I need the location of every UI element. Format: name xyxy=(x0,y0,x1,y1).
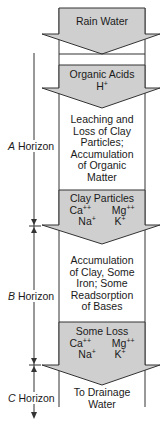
ion-row: Ca++ Mg++ xyxy=(59,205,145,217)
ion-na: Na+ xyxy=(78,216,96,228)
arrow-label-some-loss: Some Loss Ca++ Mg++ Na+ K+ xyxy=(59,326,145,361)
text-line: To Drainage xyxy=(59,387,145,399)
text-line: Leaching and xyxy=(59,114,145,126)
zone-b-description: Accumulation of Clay, Some Iron; Some Re… xyxy=(59,255,145,313)
bracket-down-arrowhead-icon xyxy=(31,412,37,419)
ion-na: Na+ xyxy=(78,349,96,361)
text-line: of Bases xyxy=(59,301,145,313)
ion-row: Na+ K+ xyxy=(59,216,145,228)
zone-a-description: Leaching and Loss of Clay Particles; Acc… xyxy=(59,114,145,183)
label-text: Rain Water xyxy=(59,16,145,28)
text-line: Matter xyxy=(59,172,145,184)
tick-down-arrowhead-icon xyxy=(31,227,37,233)
text-line: Particles; xyxy=(59,137,145,149)
zone-c-description: To Drainage Water xyxy=(59,387,145,410)
horizon-label-b: B Horizon xyxy=(8,290,54,302)
text-line: Accumulation xyxy=(59,255,145,267)
ion-k: K+ xyxy=(115,216,126,228)
arrow-label-rain-water: Rain Water xyxy=(59,16,145,28)
horizon-label-a: A Horizon xyxy=(8,140,54,152)
text-line: Water xyxy=(59,399,145,411)
arrow-label-organic-acids: Organic Acids H+ xyxy=(59,69,145,92)
tick-up-arrowhead-icon xyxy=(31,219,37,225)
ion-h: H+ xyxy=(59,81,145,93)
text-line: Iron; Some xyxy=(59,278,145,290)
text-line: of Organic xyxy=(59,160,145,172)
ion-row: Na+ K+ xyxy=(59,349,145,361)
ion-k: K+ xyxy=(115,349,126,361)
arrow-label-clay-particles: Clay Particles Ca++ Mg++ Na+ K+ xyxy=(59,193,145,228)
tick-up-arrowhead-icon xyxy=(31,358,37,364)
ion-row: Ca++ Mg++ xyxy=(59,338,145,350)
horizon-label-c: C Horizon xyxy=(8,392,55,404)
tick-down-arrowhead-icon xyxy=(31,366,37,372)
